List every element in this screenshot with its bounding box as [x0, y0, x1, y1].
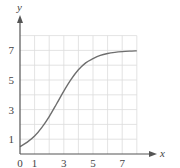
y-tick-labels: 1357 — [9, 44, 15, 145]
y-tick-label: 5 — [9, 74, 15, 86]
x-axis-label: x — [159, 147, 165, 159]
x-tick-label: 1 — [32, 157, 38, 168]
y-axis-arrow-icon — [17, 15, 23, 23]
x-tick-label: 0 — [17, 157, 23, 168]
x-tick-label: 3 — [61, 157, 67, 168]
y-tick-label: 3 — [9, 104, 15, 116]
grid — [20, 36, 137, 154]
x-axis-arrow-icon — [149, 151, 157, 157]
x-tick-label: 7 — [119, 157, 125, 168]
y-tick-label: 1 — [9, 133, 15, 145]
chart: x y 01357 1357 — [0, 0, 180, 168]
x-tick-labels: 01357 — [17, 157, 125, 168]
y-tick-label: 7 — [9, 44, 15, 56]
x-tick-label: 5 — [90, 157, 96, 168]
y-axis-label: y — [16, 1, 22, 13]
